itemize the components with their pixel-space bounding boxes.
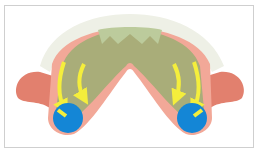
right-blue-circle: [177, 103, 207, 133]
left-blue-circle: [53, 103, 83, 133]
denture-illustration: [0, 0, 260, 153]
